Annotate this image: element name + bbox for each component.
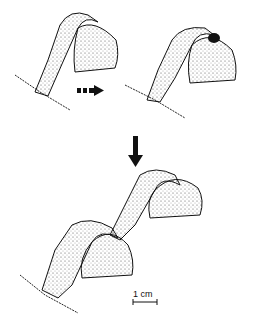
figure-canvas: 1 cm [0, 0, 255, 323]
dashed-arrow-icon [77, 85, 104, 96]
dome-1 [74, 25, 118, 72]
stage-1-drawing [15, 13, 118, 110]
down-arrow-icon [128, 136, 143, 167]
scale-bar-label: 1 cm [133, 289, 153, 299]
stage-3-drawing [20, 170, 202, 313]
dark-opening [208, 33, 220, 43]
dome-2 [188, 38, 236, 83]
scale-bar [133, 299, 157, 305]
stage-2-drawing [125, 28, 236, 119]
